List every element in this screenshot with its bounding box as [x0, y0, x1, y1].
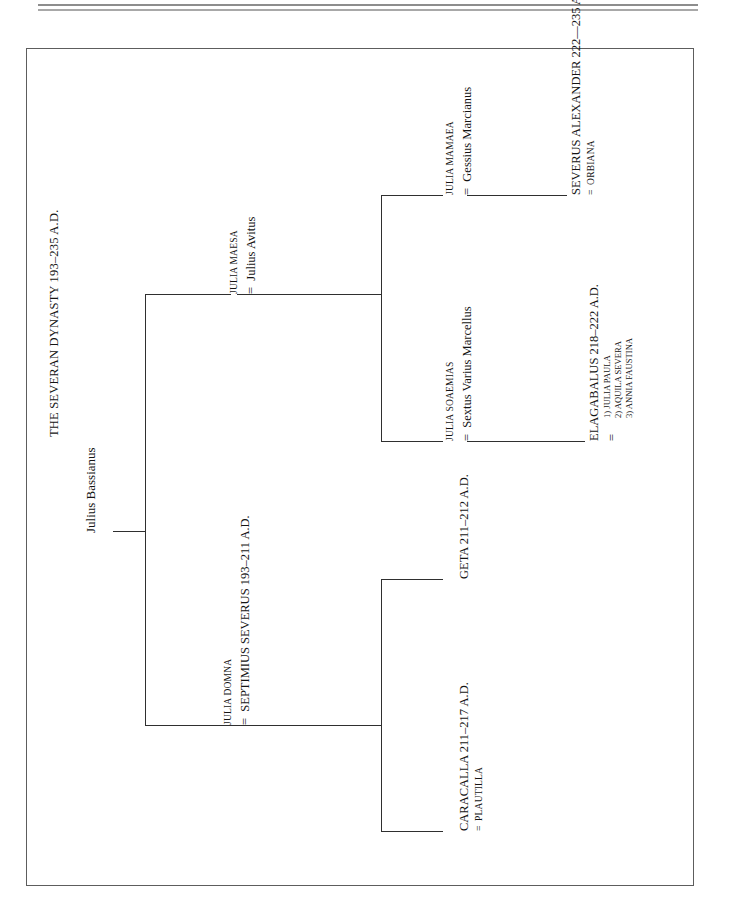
label-plautilla-line: = PLAUTILLA: [474, 767, 486, 831]
node-elagabalus: ELAGABALUS 218–222 A.D.: [587, 284, 603, 441]
node-gessius-marcianus: = Gessius Marcianus: [460, 87, 476, 195]
node-elagabalus-wife-2: 2) AQUILA SEVERA: [613, 341, 624, 418]
node-julia-mamaea: JULIA MAMAEA: [445, 121, 457, 195]
label-julius-avitus-line: = Julius Avitus: [244, 217, 260, 294]
label-julia-maesa: JULIA MAESA: [229, 230, 241, 294]
label-julia-mamaea: JULIA MAMAEA: [445, 121, 457, 195]
node-julius-bassianus: Julius Bassianus: [83, 447, 99, 533]
edge-root-split-spine: [145, 294, 146, 532]
label-julia-domna: JULIA DOMNA: [223, 659, 235, 725]
node-julius-avitus: = Julius Avitus: [244, 217, 260, 294]
marriage-sign-elagabalus: =: [605, 434, 619, 441]
edge-maesa-to-julia-soaemias: [381, 441, 443, 442]
chart-frame: THE SEVERAN DYNASTY 193–235 A.D. Julius …: [26, 48, 694, 886]
marriage-sign-caracalla: =: [474, 826, 484, 831]
label-orbiana-line: = ORBIANA: [586, 140, 598, 195]
node-plautilla: = PLAUTILLA: [474, 767, 486, 831]
marriage-sign-alexander: =: [586, 190, 596, 195]
node-severus-alexander: SEVERUS ALEXANDER 222—235 A.D.: [569, 0, 585, 195]
marriage-sign-mamaea: =: [460, 188, 474, 195]
node-caracalla: CARACALLA 211–217 A.D.: [457, 682, 473, 831]
edge-maesa-to-julia-mamaea: [381, 195, 443, 196]
node-sextus-varius-marcellus: = Sextus Varius Marcellus: [460, 306, 476, 441]
label-gessius-marcianus: Gessius Marcianus: [460, 87, 474, 182]
label-septimius-severus-line: = SEPTIMIUS SEVERUS 193–211 A.D.: [238, 515, 254, 725]
label-severus-alexander: SEVERUS ALEXANDER 222—235 A.D.: [569, 0, 585, 195]
edge-domna-to-geta: [381, 579, 443, 580]
node-julia-domna: JULIA DOMNA: [223, 659, 235, 725]
edge-mamaea-to-severus-alexander: [467, 195, 567, 196]
node-orbiana: = ORBIANA: [586, 140, 598, 195]
marriage-sign-maesa: =: [244, 287, 258, 294]
node-julia-soaemias: JULIA SOAEMIAS: [445, 361, 457, 441]
marriage-sign-domna: =: [238, 718, 252, 725]
edge-root-to-julia-domna: [145, 725, 231, 726]
label-caracalla: CARACALLA 211–217 A.D.: [457, 682, 473, 831]
label-sextus-varius-marcellus-line: = Sextus Varius Marcellus: [460, 306, 476, 441]
node-elagabalus-wife-3: 3) ANNIA FAUSTINA: [624, 338, 635, 418]
node-geta: GETA 211–212 A.D.: [457, 474, 473, 579]
node-julia-maesa: JULIA MAESA: [229, 230, 241, 294]
label-plautilla: PLAUTILLA: [474, 767, 484, 821]
node-elagabalus-wife-1: 1) JULIA PAULA: [602, 355, 613, 418]
edge-soaemias-to-elagabalus: [467, 441, 585, 442]
edge-maesa-stem: [237, 294, 381, 295]
marriage-sign-soaemias: =: [460, 434, 474, 441]
node-septimius-severus: = SEPTIMIUS SEVERUS 193–211 A.D.: [238, 515, 254, 725]
edge-domna-children-spine: [381, 579, 382, 831]
edge-domna-to-caracalla: [381, 831, 443, 832]
edge-root-stem: [113, 531, 145, 532]
label-julia-soaemias: JULIA SOAEMIAS: [445, 361, 457, 441]
label-elagabalus: ELAGABALUS 218–222 A.D.: [587, 284, 603, 441]
edge-maesa-children-spine: [381, 195, 382, 441]
page-rule-bottom: [38, 9, 698, 11]
marriage-sign-elagabalus-wrap: =: [605, 434, 621, 441]
label-sextus-varius-marcellus: Sextus Varius Marcellus: [460, 306, 474, 427]
edge-root-to-julia-maesa: [145, 294, 231, 295]
label-gessius-marcianus-line: = Gessius Marcianus: [460, 87, 476, 195]
page-rule-top: [38, 4, 698, 6]
label-orbiana: ORBIANA: [586, 140, 596, 185]
label-septimius-severus: SEPTIMIUS SEVERUS 193–211 A.D.: [238, 515, 252, 711]
label-julius-avitus: Julius Avitus: [244, 217, 258, 281]
edge-root-spine-lower: [145, 531, 146, 726]
chart-title: THE SEVERAN DYNASTY 193–235 A.D.: [47, 210, 63, 437]
edge-domna-stem: [231, 725, 381, 726]
